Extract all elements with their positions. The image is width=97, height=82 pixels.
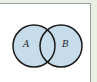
- set-b-label: B: [61, 39, 69, 49]
- set-a-label: A: [22, 39, 30, 49]
- venn-diagram: A B: [0, 0, 97, 82]
